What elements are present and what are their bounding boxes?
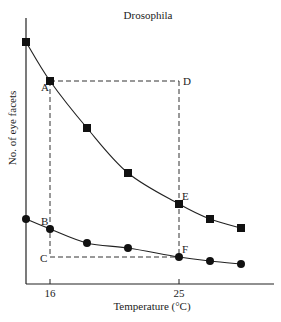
point-label-A: A [41,81,49,93]
circle-marker [22,215,30,223]
point-label-E: E [182,190,189,202]
point-label-F: F [182,243,188,255]
y-axis-label: No. of eye facets [6,91,18,166]
chart-title: Drosophila [124,9,173,21]
x-axis-label: Temperature (°C) [113,300,191,313]
curve-line [26,42,241,228]
square-marker [83,124,91,132]
annotations: ABCDEF [40,75,191,264]
circle-marker [206,257,214,265]
x-tick-label: 16 [45,287,57,299]
square-marker [124,169,132,177]
point-label-D: D [183,75,191,87]
point-label-B: B [41,215,48,227]
circle-marker [124,244,132,252]
curves [26,42,241,264]
chart: 1625 ABCDEF Drosophila Temperature (°C) … [0,0,281,322]
square-marker [206,215,214,223]
square-marker [237,224,245,232]
circle-marker [237,260,245,268]
point-label-C: C [40,252,47,264]
markers [22,38,245,268]
square-marker [22,38,30,46]
x-tick-label: 25 [174,287,186,299]
circle-marker [83,239,91,247]
